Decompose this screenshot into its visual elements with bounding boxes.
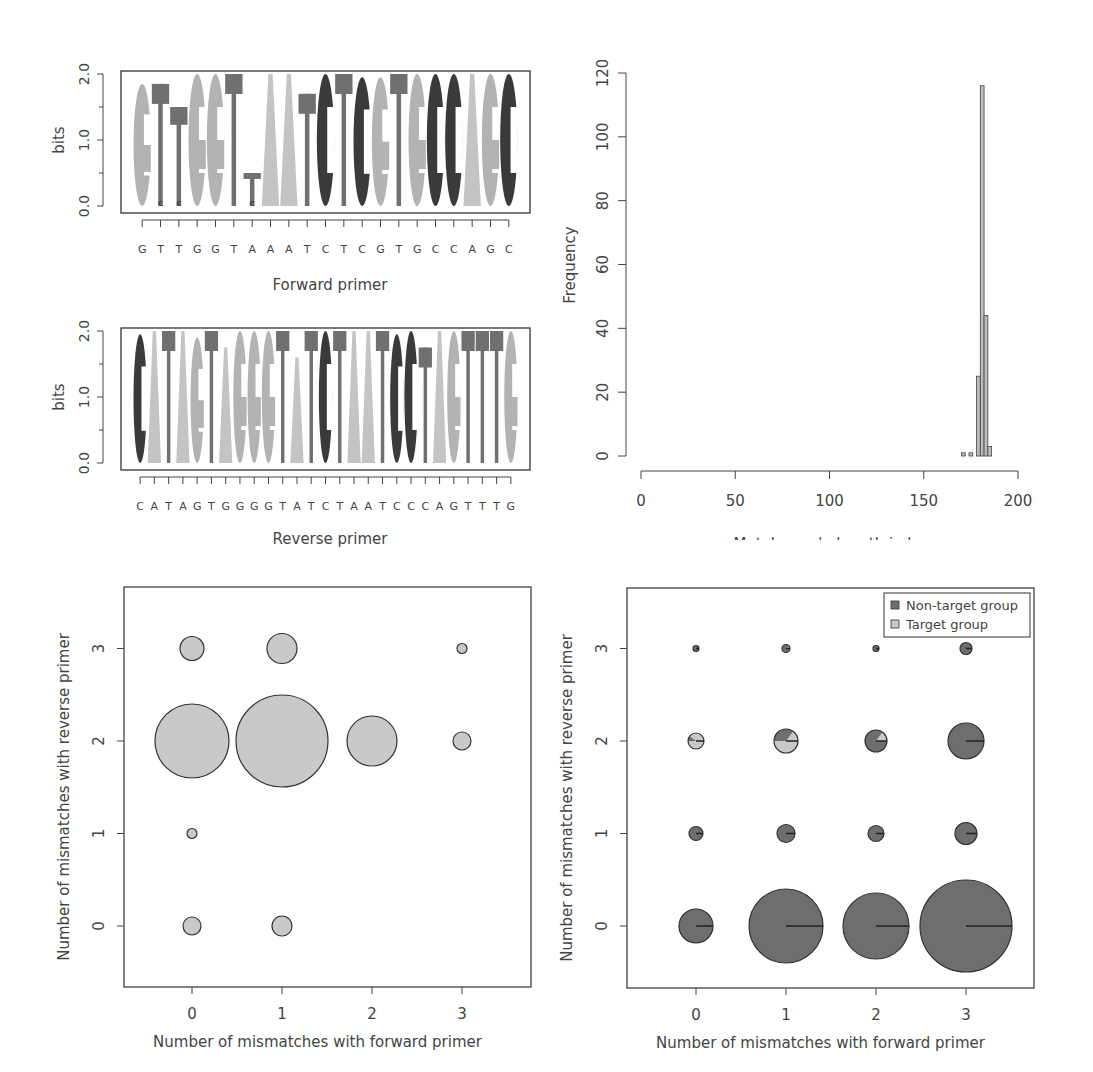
svg-text:c: c: [176, 198, 181, 208]
logo-letter-C: [404, 331, 418, 463]
sequence-letter: C: [505, 243, 513, 256]
sequence-letter: G: [264, 500, 273, 513]
bubble: [453, 732, 471, 750]
logo-letter-T: [419, 348, 432, 464]
sequence-letter: C: [358, 243, 366, 256]
logo-letter-C: [427, 74, 445, 206]
logo-letter-T: [461, 331, 474, 463]
histogram-bar: [969, 453, 973, 456]
pie-marker: [749, 889, 823, 963]
pie-marker: [774, 729, 798, 753]
logo-letter-C: [390, 334, 404, 463]
y-tick-label: 0: [594, 451, 612, 461]
sequence-letter: T: [464, 500, 472, 513]
sequence-letter: T: [303, 243, 311, 256]
x-tick-label: 0: [187, 1005, 197, 1023]
mismatch-pie-chart: 01230123Number of mismatches with forwar…: [550, 580, 1050, 1060]
logo-letter-A: [347, 331, 360, 463]
pie-marker: [688, 733, 704, 749]
x-tick-label: 1: [277, 1005, 287, 1023]
sequence-letter: T: [229, 243, 237, 256]
legend-label: Non-target group: [906, 598, 1018, 613]
sequence-letter: A: [436, 500, 444, 513]
forward-primer-xlabel: Forward primer: [40, 276, 540, 294]
sequence-letter: T: [492, 500, 500, 513]
x-tick-label: 150: [909, 492, 938, 510]
y-axis-label: Number of mismatches with reverse primer: [55, 632, 73, 961]
x-axis-label: Number of mismatches with forward primer: [656, 1034, 986, 1052]
logo-letter-G: [134, 84, 152, 206]
x-tick-label: 1: [781, 1006, 791, 1024]
x-tick-label: 100: [815, 492, 844, 510]
sequence-letter: C: [393, 500, 401, 513]
pie-marker: [679, 909, 713, 943]
sequence-letter: C: [421, 500, 429, 513]
sequence-letter: G: [450, 500, 459, 513]
legend-label: Target group: [905, 617, 988, 632]
logo-letter-C: [354, 77, 372, 206]
forward-primer-logo: 0.01.02.0bitsGcTcTGGTcAAATCTCGTGCCAGC Fo…: [40, 60, 540, 300]
y-tick-label: 0.0: [76, 452, 92, 474]
histogram-bar: [961, 453, 965, 456]
x-tick-label: 0: [691, 1006, 701, 1024]
y-tick-label: 1.0: [76, 129, 92, 151]
bubble: [236, 695, 328, 787]
sequence-letter: T: [335, 500, 343, 513]
sequence-letter: T: [394, 243, 402, 256]
legend: Non-target groupTarget group: [884, 593, 1030, 637]
pie-marker: [960, 643, 972, 655]
logo-letter-T: [299, 94, 316, 206]
logo-letter-A: [219, 348, 232, 464]
logo-letter-G: [189, 74, 207, 206]
logo-letter-T: [152, 84, 169, 206]
pie-marker: [777, 825, 795, 843]
logo-letter-G: [447, 331, 461, 463]
sequence-letter: T: [207, 500, 215, 513]
y-tick-label: 80: [594, 191, 612, 210]
sequence-letter: G: [236, 500, 245, 513]
sequence-letter: C: [432, 243, 440, 256]
logo-letter-T: [276, 331, 289, 463]
pie-marker: [868, 826, 884, 842]
y-tick-label: 3: [593, 644, 611, 654]
sequence-letter: A: [285, 243, 293, 256]
sequence-letter: G: [507, 500, 516, 513]
y-tick-label: 20: [594, 383, 612, 402]
logo-letter-A: [148, 331, 161, 463]
y-tick-label: 100: [594, 123, 612, 152]
histogram-bar: [980, 86, 984, 456]
sequence-letter: T: [378, 500, 386, 513]
bubble: [272, 916, 292, 936]
pie-marker: [782, 645, 790, 653]
svg-text:c: c: [158, 198, 163, 208]
x-axis-label: Number of mismatches with forward primer: [153, 1033, 483, 1051]
pie-marker: [873, 646, 879, 652]
bubble: [347, 716, 397, 766]
logo-letter-G: [207, 74, 225, 206]
logo-letter-G: [262, 331, 276, 463]
logo-letter-A: [280, 74, 297, 206]
logo-letter-T: [162, 331, 175, 463]
sequence-letter: C: [407, 500, 415, 513]
pie-marker: [693, 646, 699, 652]
histogram-bar: [988, 446, 992, 456]
bubble: [267, 634, 297, 664]
sequence-letter: C: [450, 243, 458, 256]
pie-marker: [843, 893, 909, 959]
x-tick-label: 3: [961, 1006, 971, 1024]
x-tick-label: 3: [457, 1005, 467, 1023]
logo-letter-T: [376, 331, 389, 463]
logo-letter-T: [390, 74, 407, 206]
x-tick-label: 0: [636, 492, 646, 510]
sequence-letter: C: [322, 243, 330, 256]
logo-letter-T: [490, 331, 503, 463]
sequence-letter: C: [136, 500, 144, 513]
y-tick-label: 0: [593, 921, 611, 931]
svg-text:c: c: [249, 198, 254, 208]
sequence-letter: G: [211, 243, 220, 256]
y-tick-label: 2.0: [76, 320, 92, 342]
sequence-letter: T: [478, 500, 486, 513]
y-axis-label: bits: [50, 383, 68, 411]
logo-letter-A: [176, 331, 189, 463]
sequence-letter: A: [365, 500, 373, 513]
